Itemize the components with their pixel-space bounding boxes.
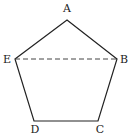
vertex-label-c: C xyxy=(96,123,104,136)
vertex-label-a: A xyxy=(62,2,72,15)
pentagon-outline xyxy=(15,20,117,121)
vertex-label-e: E xyxy=(3,53,11,66)
vertex-label-d: D xyxy=(31,123,40,136)
pentagon-diagram: A B C D E xyxy=(0,0,130,136)
vertex-label-b: B xyxy=(120,53,128,66)
